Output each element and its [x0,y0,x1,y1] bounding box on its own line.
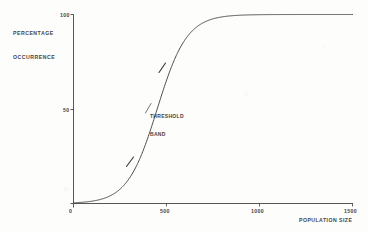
chart-plot-area [0,0,368,231]
threshold-band-line1: THRESHOLD [150,113,184,119]
x-tick-label-1500: 1500 [344,208,357,215]
y-axis-title: PERCENTAGE OCCURRENCE [13,13,55,78]
threshold-band-line2: BAND [150,131,184,137]
figure-canvas: PERCENTAGE OCCURRENCE 100 50 0 500 1000 … [0,0,368,231]
y-tick-label-100: 100 [60,12,70,19]
y-tick-label-50: 50 [63,107,69,114]
y-axis-title-line2: OCCURRENCE [13,53,55,61]
x-tick-label-500: 500 [160,208,170,215]
origin-label: 0 [69,208,72,215]
threshold-band-upper-marker [159,63,166,73]
threshold-band-annotation: THRESHOLD BAND [150,100,184,150]
x-axis-title: POPULATION SIZE [299,217,352,224]
y-axis-title-line1: PERCENTAGE [13,29,55,37]
threshold-band-lower-marker [127,157,134,167]
sigmoid-curve [74,15,353,203]
x-tick-label-1000: 1000 [251,208,264,215]
